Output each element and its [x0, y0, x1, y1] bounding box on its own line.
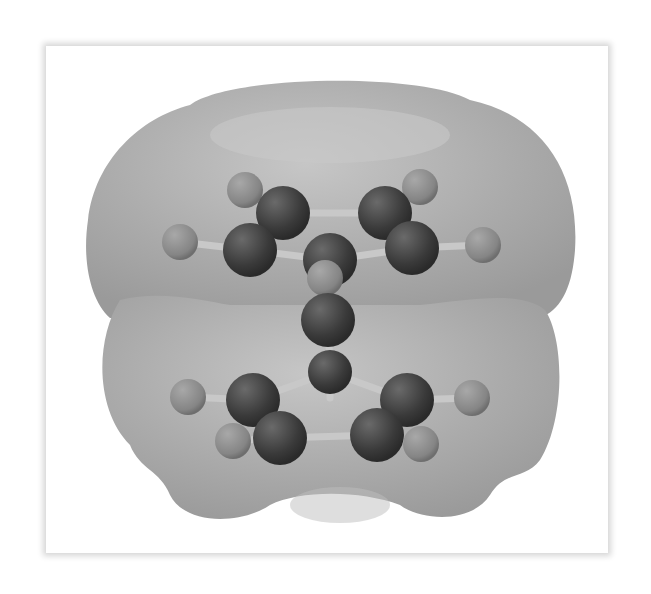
- molecule-rendering: [0, 0, 651, 594]
- surface-highlight: [290, 487, 390, 523]
- hydrogen-atom: [403, 426, 439, 462]
- carbon-atom: [253, 411, 307, 465]
- metal-atom: [301, 293, 355, 347]
- carbon-atom: [350, 408, 404, 462]
- carbon-atom: [308, 350, 352, 394]
- hydrogen-atom: [465, 227, 501, 263]
- hydrogen-atom: [307, 260, 343, 296]
- carbon-atom: [385, 221, 439, 275]
- hydrogen-atom: [454, 380, 490, 416]
- hydrogen-atom: [227, 172, 263, 208]
- carbon-atom: [223, 223, 277, 277]
- hydrogen-atom: [170, 379, 206, 415]
- hydrogen-atom: [215, 423, 251, 459]
- hydrogen-atom: [162, 224, 198, 260]
- surface-highlight: [210, 107, 450, 163]
